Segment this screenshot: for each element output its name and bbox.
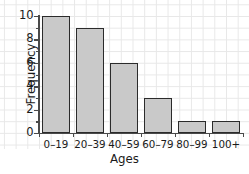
bar-0–19 [42,16,70,133]
x-tick-3 [141,133,142,138]
x-tick-2 [107,133,108,138]
bar-80–99 [178,121,206,133]
y-tick-2 [34,110,38,111]
x-axis-title: Ages [0,152,249,166]
plot-area [39,16,243,133]
x-tick-0 [39,133,40,138]
y-minor-tick-9 [36,28,39,29]
x-tick-label-0–19: 0–19 [44,139,69,149]
x-tick-label-20–39: 20–39 [74,139,105,149]
x-tick-label-40–59: 40–59 [108,139,139,149]
y-tick-label-0: 0 [26,127,33,139]
x-tick-5 [209,133,210,138]
bar-20–39 [76,28,104,133]
y-minor-tick-1 [36,121,39,122]
x-tick-4 [175,133,176,138]
y-tick-label-2: 2 [26,104,33,116]
y-tick-8 [34,39,38,40]
x-tick-6 [243,133,244,138]
bar-100+ [212,121,240,133]
bar-60–79 [144,98,172,133]
x-axis: 0–1920–3940–5960–7980–99100+ [38,133,244,135]
y-tick-10 [34,16,38,17]
x-tick-label-60–79: 60–79 [142,139,173,149]
x-tick-label-80–99: 80–99 [176,139,207,149]
bar-40–59 [110,63,138,133]
y-tick-label-10: 10 [19,10,34,22]
histogram-chart: 0246810 0–1920–3940–5960–7980–99100+ Fre… [0,0,249,174]
x-tick-label-100+: 100+ [212,139,240,149]
y-axis-title: Frequency [24,44,38,105]
x-tick-1 [73,133,74,138]
